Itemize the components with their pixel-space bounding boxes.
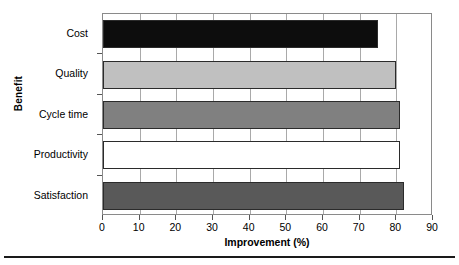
y-tick-label-quality: Quality (55, 53, 88, 93)
x-tick-mark-0 (102, 215, 103, 220)
x-tick-label-90: 90 (412, 221, 452, 233)
x-tick-label-60: 60 (302, 221, 342, 233)
x-tick-label-20: 20 (155, 221, 195, 233)
x-tick-mark-40 (249, 215, 250, 220)
y-tick-mark-3 (97, 134, 102, 135)
plot-area (102, 13, 432, 215)
bar-quality (103, 61, 396, 89)
x-tick-label-40: 40 (229, 221, 269, 233)
x-tick-mark-30 (212, 215, 213, 220)
bar-satisfaction (103, 182, 404, 210)
y-tick-mark-1 (97, 53, 102, 54)
x-tick-label-0: 0 (82, 221, 122, 233)
bar-chart-figure: Benefit CostQualityCycle timeProductivit… (0, 0, 459, 265)
x-tick-mark-60 (322, 215, 323, 220)
bar-cycle-time (103, 101, 400, 129)
x-tick-mark-90 (432, 215, 433, 220)
x-tick-mark-80 (395, 215, 396, 220)
x-tick-label-30: 30 (192, 221, 232, 233)
x-tick-label-50: 50 (265, 221, 305, 233)
x-axis-title: Improvement (%) (102, 236, 432, 248)
x-tick-mark-70 (359, 215, 360, 220)
x-tick-label-70: 70 (339, 221, 379, 233)
y-tick-label-productivity: Productivity (34, 134, 88, 174)
x-tick-label-10: 10 (119, 221, 159, 233)
x-tick-mark-50 (285, 215, 286, 220)
bar-cost (103, 20, 378, 48)
y-tick-mark-2 (97, 94, 102, 95)
y-tick-mark-4 (97, 175, 102, 176)
footer-divider (4, 256, 455, 258)
category-label-column: CostQualityCycle timeProductivitySatisfa… (2, 13, 95, 215)
y-tick-label-satisfaction: Satisfaction (34, 175, 88, 215)
plot-inner (103, 14, 431, 214)
x-tick-label-80: 80 (375, 221, 415, 233)
y-tick-label-cycle-time: Cycle time (39, 94, 88, 134)
bar-productivity (103, 141, 400, 169)
x-tick-mark-20 (175, 215, 176, 220)
y-tick-label-cost: Cost (66, 13, 88, 53)
x-tick-mark-10 (139, 215, 140, 220)
